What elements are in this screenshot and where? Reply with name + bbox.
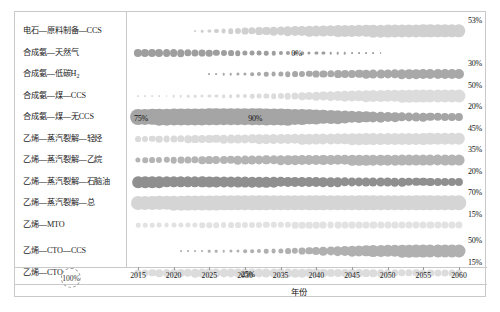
legend-size-label: 100% xyxy=(62,274,80,283)
bubble-point xyxy=(151,95,153,97)
axis-divider-bottom xyxy=(15,284,487,285)
bubble-point xyxy=(279,51,283,55)
bubble-point xyxy=(229,94,233,98)
series-end-value: 20% xyxy=(468,167,482,176)
bubble-point xyxy=(178,222,183,227)
bubble-point xyxy=(308,51,311,54)
bubble-point xyxy=(236,249,239,252)
bubble-point xyxy=(250,51,255,56)
row-label: 乙烯—MTO xyxy=(23,221,65,229)
bubble-point xyxy=(427,221,434,228)
bubble-point xyxy=(285,248,291,254)
bubble-point xyxy=(278,93,284,99)
row-label: 乙烯—CTO xyxy=(23,269,63,277)
bubble-point xyxy=(213,50,219,56)
bubble-point xyxy=(222,94,226,98)
bubble-point xyxy=(215,250,218,253)
bubble-point xyxy=(235,222,241,228)
bubble-point xyxy=(327,222,334,229)
bubble-point xyxy=(187,95,190,98)
bubble-point xyxy=(170,157,177,164)
row-label: 乙烯—蒸汽裂解—石脑油 xyxy=(23,178,110,186)
bubble-point xyxy=(194,250,196,252)
bubble-point xyxy=(336,52,339,55)
bubble-point xyxy=(377,221,384,228)
bubble-point xyxy=(264,249,269,254)
bubble-point xyxy=(271,93,277,99)
bubble-point xyxy=(142,157,148,163)
bubble-point xyxy=(243,94,247,98)
bubble-point xyxy=(250,249,254,253)
bubble-point xyxy=(315,51,318,54)
bubble-point xyxy=(249,222,255,228)
bubble-point xyxy=(199,222,205,228)
x-tick-mark xyxy=(352,267,353,270)
bubble-point xyxy=(228,28,234,34)
bubble-point xyxy=(453,133,465,145)
series-end-value: 35% xyxy=(468,145,482,154)
bubble-point xyxy=(380,52,382,54)
series-end-value: 50% xyxy=(468,81,482,90)
x-tick-label: 2020 xyxy=(166,271,182,280)
bubble-point xyxy=(163,136,170,143)
x-tick-mark xyxy=(138,267,139,270)
series-inline-value: 90% xyxy=(248,114,262,123)
bubble-point xyxy=(441,221,448,228)
bubble-point xyxy=(214,222,220,228)
bubble-point xyxy=(271,72,276,77)
x-axis-title: 年份 xyxy=(291,285,307,297)
plot-frame: 电石—原料制备—CCS合成氨—天然气合成氨—低碳H2合成氨—煤—CCS合成氨—煤… xyxy=(14,11,486,297)
bubble-point xyxy=(166,95,168,97)
series-end-value: 15% xyxy=(468,210,482,219)
bubble-point xyxy=(208,94,211,97)
x-tick-label: 2040 xyxy=(309,271,325,280)
bubble-point xyxy=(257,72,261,76)
x-tick-mark xyxy=(423,267,424,270)
series-end-value: 70% xyxy=(468,188,482,197)
bubble-point xyxy=(455,178,463,186)
bubble-point xyxy=(201,250,203,252)
bubble-point xyxy=(180,95,183,98)
row-label: 合成氨—低碳H2 xyxy=(23,70,79,78)
bubble-point xyxy=(172,95,175,98)
bubble-point xyxy=(192,49,199,56)
bubble-point xyxy=(214,29,218,33)
bubble-point xyxy=(451,195,466,210)
bubble-point xyxy=(284,93,291,100)
bubble-point xyxy=(391,221,398,228)
series-end-value: 45% xyxy=(468,124,482,133)
bubble-point xyxy=(398,221,405,228)
bubble-chart: 电石—原料制备—CCS合成氨—天然气合成氨—低碳H2合成氨—煤—CCS合成氨—煤… xyxy=(0,0,500,312)
bubble-point xyxy=(156,157,162,163)
bubble-point xyxy=(199,50,206,57)
bubble-point xyxy=(194,30,196,32)
bubble-point xyxy=(228,222,234,228)
x-tick-label: 2025 xyxy=(202,271,218,280)
bubble-point xyxy=(235,50,241,56)
x-tick-mark xyxy=(245,267,246,270)
bubble-point xyxy=(216,73,218,75)
bubble-point xyxy=(384,221,391,228)
bubble-point xyxy=(164,223,169,228)
bubble-point xyxy=(299,71,305,77)
bubble-point xyxy=(208,29,211,32)
bubble-point xyxy=(264,93,269,98)
bubble-point xyxy=(264,51,269,56)
x-tick-mark xyxy=(281,267,282,270)
bubble-point xyxy=(277,222,283,228)
bubble-point xyxy=(341,222,348,229)
bubble-point xyxy=(257,94,262,99)
bubble-point xyxy=(201,94,204,97)
bubble-point xyxy=(242,222,248,228)
bubble-point xyxy=(135,136,141,142)
bubble-point xyxy=(207,222,213,228)
bubble-point xyxy=(453,245,466,258)
bubble-point xyxy=(292,248,298,254)
bubble-point xyxy=(206,50,213,57)
row-label: 合成氨—煤—无CCS xyxy=(23,113,94,121)
bubble-point xyxy=(286,51,290,55)
bubble-point xyxy=(322,51,325,54)
bubble-point xyxy=(452,24,465,37)
bubble-point xyxy=(250,94,255,99)
bubble-point xyxy=(455,113,463,121)
